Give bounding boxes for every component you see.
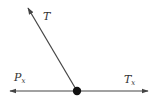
point-mass-dot <box>73 87 81 95</box>
label-t-main: T <box>43 10 52 23</box>
force-diagram: T Px Tx <box>0 0 157 106</box>
label-t: T <box>43 10 52 23</box>
label-tx: Tx <box>124 73 135 87</box>
vector-t-arrow <box>28 8 77 91</box>
label-tx-subscript: x <box>131 79 135 87</box>
label-px: Px <box>13 71 25 85</box>
label-px-subscript: x <box>21 77 25 85</box>
